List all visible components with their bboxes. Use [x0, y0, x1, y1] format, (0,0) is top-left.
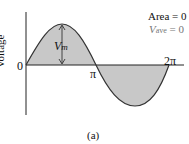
vm-label: Vm	[54, 40, 68, 53]
pi-label: π	[90, 68, 96, 80]
vm-sub: m	[61, 42, 68, 52]
vave-v: V	[149, 23, 156, 35]
area-label: Area = 0	[148, 10, 187, 22]
caption: (a)	[87, 129, 99, 141]
two-pi-label: 2π	[164, 55, 176, 67]
vave-sub: ave	[156, 26, 167, 35]
zero-label: 0	[17, 60, 23, 72]
vave-rest: = 0	[167, 23, 184, 35]
vave-label: Vave = 0	[149, 23, 184, 37]
y-axis-label: Voltage	[0, 35, 6, 68]
